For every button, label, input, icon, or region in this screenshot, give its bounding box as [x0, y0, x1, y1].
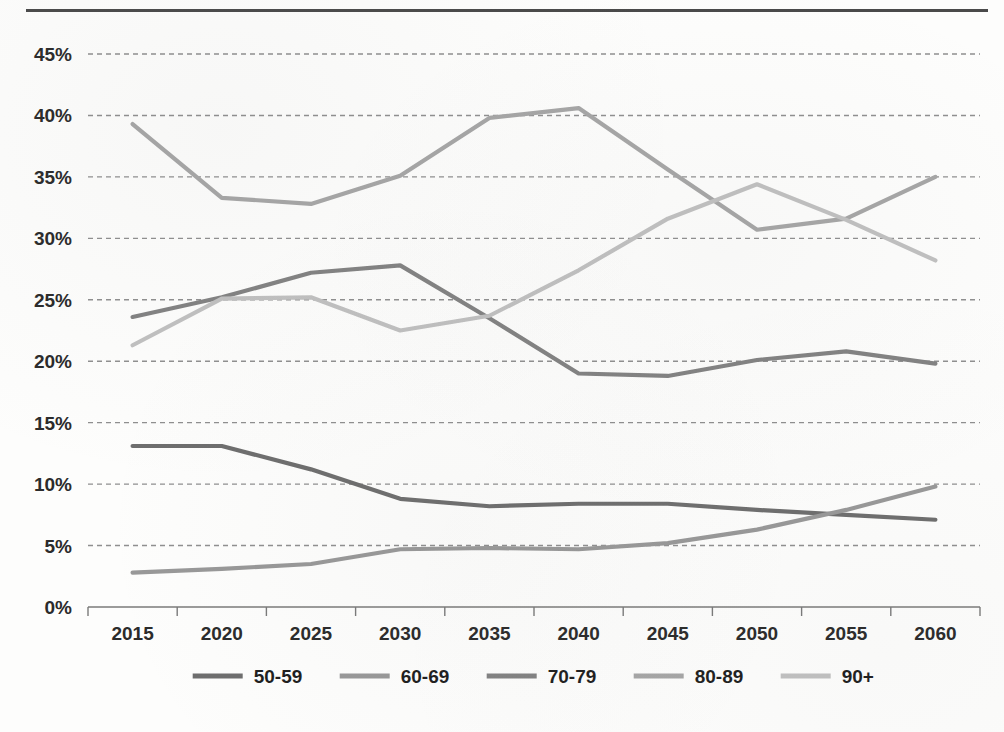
x-tick-label-2055: 2055 — [825, 623, 868, 644]
y-tick-label-35pct: 35% — [34, 167, 72, 188]
y-tick-label-0pct: 0% — [45, 597, 73, 618]
series-line-60-69 — [133, 487, 936, 573]
y-tick-label-25pct: 25% — [34, 290, 72, 311]
legend-item-60-69[interactable]: 60-69 — [340, 666, 450, 687]
legend-item-70-79[interactable]: 70-79 — [487, 666, 597, 687]
y-tick-label-30pct: 30% — [34, 228, 72, 249]
y-tick-label-45pct: 45% — [34, 44, 72, 65]
series-line-80-89 — [133, 108, 936, 230]
y-tick-label-10pct: 10% — [34, 474, 72, 495]
legend-item-80-89[interactable]: 80-89 — [634, 666, 744, 687]
x-tick-label-2015: 2015 — [111, 623, 154, 644]
chart-page: 0%5%10%15%20%25%30%35%40%45% 20152020202… — [0, 0, 1004, 732]
series-line-70-79 — [133, 265, 936, 376]
y-tick-label-20pct: 20% — [34, 351, 72, 372]
y-tick-label-5pct: 5% — [45, 536, 73, 557]
legend-label-80-89: 80-89 — [695, 666, 744, 687]
legend-item-50-59[interactable]: 50-59 — [193, 666, 303, 687]
x-tick-label-2050: 2050 — [736, 623, 778, 644]
x-tick-label-2020: 2020 — [201, 623, 243, 644]
x-axis-ticks — [88, 607, 980, 616]
series-line-50-59 — [133, 446, 936, 520]
x-tick-label-2030: 2030 — [379, 623, 421, 644]
y-axis-tick-labels: 0%5%10%15%20%25%30%35%40%45% — [34, 44, 72, 618]
y-tick-label-15pct: 15% — [34, 413, 72, 434]
y-tick-label-40pct: 40% — [34, 105, 72, 126]
series-line-90plus — [133, 184, 936, 345]
x-tick-label-2060: 2060 — [914, 623, 956, 644]
legend-label-60-69: 60-69 — [401, 666, 450, 687]
x-axis-tick-labels: 2015202020252030203520402045205020552060 — [111, 623, 956, 644]
x-tick-label-2040: 2040 — [557, 623, 599, 644]
data-series-group — [133, 108, 936, 573]
legend-label-70-79: 70-79 — [548, 666, 597, 687]
x-tick-label-2035: 2035 — [468, 623, 511, 644]
chart-legend: 50-5960-6970-7980-8990+ — [193, 666, 874, 687]
line-chart: 0%5%10%15%20%25%30%35%40%45% 20152020202… — [0, 0, 1004, 732]
x-tick-label-2025: 2025 — [290, 623, 333, 644]
legend-item-90plus[interactable]: 90+ — [781, 666, 874, 687]
legend-label-50-59: 50-59 — [254, 666, 303, 687]
legend-label-90plus: 90+ — [842, 666, 874, 687]
x-tick-label-2045: 2045 — [647, 623, 690, 644]
